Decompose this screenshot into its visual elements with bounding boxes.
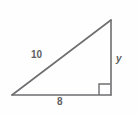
base-label: 8	[57, 97, 63, 107]
hypotenuse-label: 10	[31, 50, 42, 60]
right-angle-marker-icon	[99, 84, 110, 95]
right-triangle-figure: 10 8 y	[0, 0, 137, 114]
vertical-leg-label: y	[116, 54, 122, 64]
hypotenuse-line	[12, 20, 111, 95]
